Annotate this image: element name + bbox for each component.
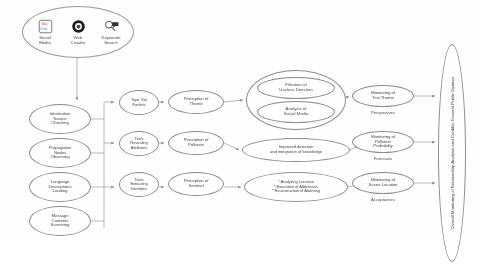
node-filtration-of-useless-direction[interactable]: Filtration of Useless Direction — [257, 77, 335, 99]
node-perception-of-theme[interactable]: Perception of Theme — [168, 90, 224, 114]
node-analyzing-location-alarming[interactable]: * Analyzing Location * Execution of Addr… — [244, 172, 348, 202]
web-crawler-icon — [71, 18, 86, 35]
node-line2: Sentinel — [188, 184, 203, 189]
node-line3: Identities — [131, 187, 146, 191]
source-label-line2: Media — [39, 41, 51, 46]
node-line2: Scene Location — [369, 183, 398, 188]
source-label-line2: Search — [104, 41, 118, 46]
caption-forecasts: Forecasts — [352, 156, 414, 161]
caption-perspectives: Perspectives — [352, 110, 414, 115]
svg-text:You: You — [41, 22, 47, 26]
node-language-descriptions-loading[interactable]: Language Descriptions Loading — [29, 172, 91, 202]
node-line2: Theme — [189, 102, 202, 107]
keywords-search-icon — [103, 18, 120, 35]
node-perception-of-pollution[interactable]: Perception of Pollution — [168, 131, 224, 155]
node-analysis-of-social-media[interactable]: Analysis of Social Media — [257, 101, 335, 123]
node-texts-extracting-identities[interactable]: Texts Extracting Identities — [119, 172, 159, 197]
node-line2: Forfeits — [133, 103, 146, 107]
social-media-icon: You f t in — [38, 18, 53, 35]
node-message-contents-screening[interactable]: Message Contents Screening — [29, 206, 91, 236]
node-line3: Loading — [53, 189, 68, 194]
node-line2: and integration of knowledge — [270, 150, 322, 155]
node-line3: Probability — [373, 144, 392, 149]
node-monitoring-of-scene-location[interactable]: Monitoring of Scene Location — [352, 172, 414, 194]
node-improved-detection-knowledge[interactable]: Improved detection and integration of kn… — [242, 138, 350, 162]
node-line2: Pollution — [188, 143, 204, 148]
source-label-line2: Crawler — [71, 41, 86, 46]
node-line2: Social Media — [284, 112, 309, 117]
node-texts-revealing-attributes[interactable]: Texts Revealing Attributes — [119, 131, 159, 156]
node-line2: Text Theme — [372, 96, 394, 101]
node-perception-of-sentinel[interactable]: Perception of Sentinel — [168, 172, 224, 196]
diagram-canvas: You f t in Social Media Web Crawler — [0, 0, 482, 266]
node-line3: Checking — [51, 121, 69, 126]
node-overall-monitoring-summary[interactable]: Overall Monitoring of Relationship Analy… — [438, 44, 466, 262]
node-line3: * Re-instruction of Alarming — [272, 189, 320, 194]
source-item-keywords-search[interactable]: Keywords Search — [95, 18, 128, 46]
node-line2: Useless Direction — [279, 88, 312, 93]
node-information-source-checking[interactable]: Information Source Checking — [29, 104, 91, 134]
node-monitoring-of-text-theme[interactable]: Monitoring of Text Theme — [352, 85, 414, 107]
source-item-social-media[interactable]: You f t in Social Media — [29, 18, 62, 46]
caption-acceptances: Acceptances — [352, 197, 414, 202]
node-line3: Screening — [51, 223, 70, 228]
node-monitoring-of-pollution-probability[interactable]: Monitoring of Pollution Probability — [352, 131, 414, 153]
node-topic-set-forfeits[interactable]: Topic Set Forfeits — [119, 90, 159, 115]
node-propagation-nodes-observing[interactable]: Propagation Nodes Observing — [29, 138, 91, 168]
source-item-web-crawler[interactable]: Web Crawler — [62, 18, 95, 46]
node-group-analysis: Filtration of Useless Direction Analysis… — [246, 70, 346, 130]
data-source-cluster: You f t in Social Media Web Crawler — [22, 6, 134, 58]
node-line3: Attributes — [131, 146, 147, 150]
svg-text:f t in: f t in — [40, 27, 47, 31]
node-line3: Observing — [50, 155, 69, 160]
node-final-label: Overall Monitoring of Relationship Analy… — [450, 77, 455, 229]
